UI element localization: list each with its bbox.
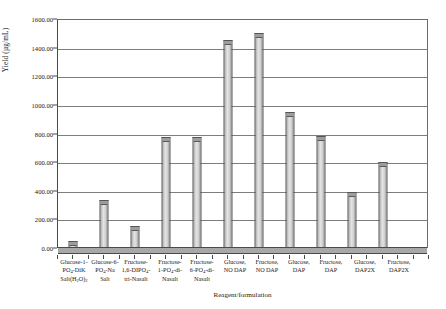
bar-slot bbox=[151, 20, 182, 248]
bar-slot bbox=[58, 20, 89, 248]
x-tick-mark bbox=[428, 255, 429, 259]
bar[interactable] bbox=[162, 137, 171, 248]
bar-slot bbox=[367, 20, 398, 248]
y-tick-label-400: 400.00 bbox=[7, 187, 53, 194]
chart-figure: Yield (µg/mL) 0.00 200.00 400.00 600.00 … bbox=[0, 0, 446, 309]
x-axis-category-labels: Glucose-1- PO4-DiK Salt(H2O)2 Glucose-6-… bbox=[57, 258, 428, 290]
bar-slot bbox=[213, 20, 244, 248]
bar[interactable] bbox=[100, 200, 109, 248]
bar[interactable] bbox=[378, 162, 387, 248]
bar[interactable] bbox=[224, 40, 233, 248]
y-tick-label-1400: 1400.00 bbox=[7, 44, 53, 51]
bar-series bbox=[58, 20, 427, 248]
bar-slot bbox=[305, 20, 336, 248]
bar[interactable] bbox=[347, 192, 356, 248]
bar-slot bbox=[182, 20, 213, 248]
bar[interactable] bbox=[193, 137, 202, 248]
bar-slot bbox=[244, 20, 275, 248]
y-tick-label-0: 0.00 bbox=[7, 245, 53, 252]
bar-slot bbox=[120, 20, 151, 248]
x-label-fructose-dap2x: Fructose, DAP2X bbox=[379, 258, 419, 273]
axis-baseline bbox=[58, 247, 427, 254]
y-tick-label-600: 600.00 bbox=[7, 159, 53, 166]
bar-slot bbox=[274, 20, 305, 248]
bar[interactable] bbox=[254, 33, 263, 248]
y-tick-label-800: 800.00 bbox=[7, 130, 53, 137]
bar[interactable] bbox=[285, 112, 294, 248]
plot-area bbox=[57, 19, 428, 248]
bar-slot bbox=[336, 20, 367, 248]
y-tick-label-1200: 1200.00 bbox=[7, 73, 53, 80]
y-axis-tick-labels: 0.00 200.00 400.00 600.00 800.00 1000.00… bbox=[0, 0, 53, 309]
x-axis-title: Reagent/formulation bbox=[57, 291, 428, 299]
y-tick-label-1000: 1000.00 bbox=[7, 101, 53, 108]
bar-slot bbox=[89, 20, 120, 248]
bar[interactable] bbox=[131, 226, 140, 248]
bar[interactable] bbox=[316, 136, 325, 248]
y-tick-label-200: 200.00 bbox=[7, 216, 53, 223]
y-tick-label-1600: 1600.00 bbox=[7, 16, 53, 23]
